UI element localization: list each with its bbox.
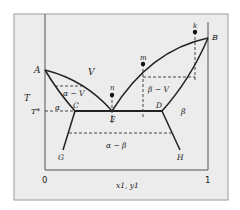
x-tick-0: 0	[42, 175, 47, 185]
label-n: n	[110, 84, 115, 92]
region-alpha-beta: α − β	[106, 141, 127, 150]
region-beta: β	[180, 107, 186, 116]
label-G: G	[58, 153, 64, 162]
axis-label-T: T	[24, 93, 31, 103]
region-alpha: α	[55, 103, 60, 112]
point-m	[141, 62, 145, 66]
x-axis-label: x1, y1	[116, 181, 139, 190]
phase-diagram: A B C E D G H n m k V α − V β − V α β α …	[0, 0, 240, 210]
x-tick-1: 1	[205, 175, 210, 185]
label-C: C	[73, 101, 79, 110]
outer-frame	[14, 14, 228, 200]
label-H: H	[176, 153, 184, 162]
label-D: D	[155, 101, 162, 110]
label-E: E	[109, 115, 116, 124]
region-alpha-vapor: α − V	[63, 89, 86, 98]
region-beta-vapor: β − V	[147, 85, 170, 94]
label-B: B	[211, 33, 218, 42]
label-k: k	[193, 22, 197, 30]
axis-label-t-star: T*	[31, 107, 40, 116]
label-m: m	[140, 54, 147, 62]
label-A: A	[33, 65, 41, 75]
point-k	[193, 30, 197, 34]
point-n	[110, 93, 114, 97]
